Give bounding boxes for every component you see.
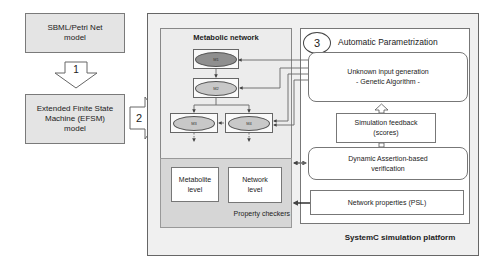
connector-lines [0,0,502,271]
